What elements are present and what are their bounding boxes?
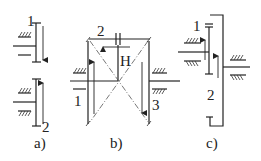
gear-2-a — [13, 79, 43, 126]
caption-a: a) — [34, 135, 46, 152]
label-gear-2-c: 2 — [207, 87, 215, 103]
caption-c: c) — [206, 135, 218, 152]
panel-b: 1 2 H 3 b) — [70, 23, 180, 152]
label-gear-3-b: 3 — [152, 97, 160, 113]
label-gear-1-b: 1 — [74, 93, 82, 109]
label-gear-2-b: 2 — [97, 23, 105, 39]
label-carrier-h: H — [120, 53, 131, 69]
label-gear-1-a: 1 — [27, 13, 35, 29]
panel-a: 1 2 a) — [13, 13, 50, 152]
panel-c: 1 2 c) — [178, 15, 250, 152]
caption-b: b) — [110, 135, 123, 152]
gear-direction-diagram: 1 2 a) — [0, 0, 261, 161]
label-gear-1-c: 1 — [193, 18, 201, 34]
label-gear-2-a: 2 — [42, 119, 50, 135]
